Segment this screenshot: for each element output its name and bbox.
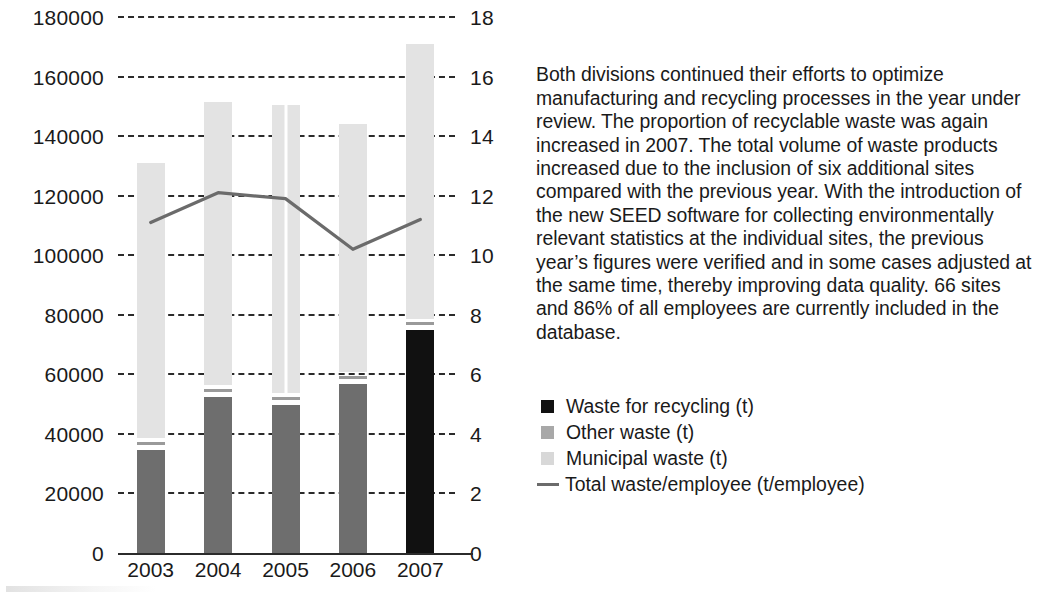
legend-item-label: Total waste/employee (t/employee) [565, 471, 865, 497]
legend-item-3[interactable]: Total waste/employee (t/employee) [538, 471, 1008, 497]
x-axis-baseline [118, 553, 473, 555]
commentary-paragraph: Both divisions continued their efforts t… [536, 63, 1036, 344]
legend-swatch-icon [541, 426, 554, 439]
legend-item-1[interactable]: Other waste (t) [538, 419, 1008, 445]
legend-item-label: Municipal waste (t) [566, 445, 728, 471]
x-axis-label-2003: 2003 [117, 558, 184, 582]
scan-edge-artifact [6, 586, 156, 592]
x-axis-label-2004: 2004 [184, 558, 251, 582]
legend-item-label: Waste for recycling (t) [566, 393, 754, 419]
x-axis-label-2005: 2005 [252, 558, 319, 582]
chart-page: 0200004000060000800001000001200001400001… [0, 0, 1060, 594]
legend-swatch-icon [537, 483, 559, 486]
legend-item-2[interactable]: Municipal waste (t) [538, 445, 1008, 471]
x-axis-label-2007: 2007 [387, 558, 454, 582]
legend-swatch-icon [541, 400, 554, 413]
chart-legend: Waste for recycling (t)Other waste (t)Mu… [538, 393, 1008, 497]
x-axis-label-2006: 2006 [319, 558, 386, 582]
total-waste-per-employee-line [0, 0, 530, 594]
legend-item-0[interactable]: Waste for recycling (t) [538, 393, 1008, 419]
legend-item-label: Other waste (t) [566, 419, 694, 445]
waste-chart: 0200004000060000800001000001200001400001… [0, 0, 530, 594]
right-column: Both divisions continued their efforts t… [536, 0, 1052, 594]
legend-swatch-icon [541, 452, 554, 465]
